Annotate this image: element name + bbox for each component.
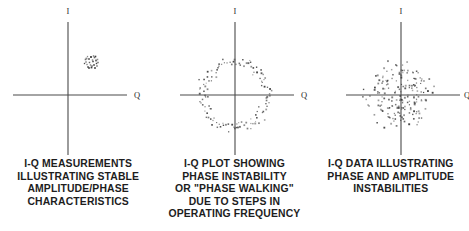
data-point xyxy=(383,127,385,129)
data-point xyxy=(398,89,400,91)
data-point xyxy=(417,121,418,122)
data-point xyxy=(239,126,241,128)
data-point xyxy=(267,106,268,107)
data-point xyxy=(394,115,395,116)
data-point xyxy=(406,61,407,62)
caption-line: DUE TO STEPS IN xyxy=(156,196,312,209)
data-point xyxy=(223,123,224,124)
data-point xyxy=(425,88,427,90)
data-point xyxy=(362,96,364,98)
data-point xyxy=(255,123,257,125)
caption-stable: I-Q MEASUREMENTS ILLUSTRATING STABLE AMP… xyxy=(0,158,156,208)
data-point xyxy=(420,99,421,100)
data-point xyxy=(404,97,406,99)
data-point xyxy=(362,89,363,90)
data-point xyxy=(258,122,260,124)
data-point xyxy=(407,95,408,96)
data-point xyxy=(402,64,403,65)
plot-svg-phase-walking: I Q xyxy=(156,0,312,158)
data-point xyxy=(391,96,393,98)
data-point xyxy=(397,86,399,88)
panel-stable: I Q I-Q MEASUREMENTS ILLUSTRATING STABLE… xyxy=(0,0,156,231)
data-point xyxy=(267,96,269,98)
data-point xyxy=(407,96,409,98)
data-point xyxy=(97,59,99,61)
data-point xyxy=(228,131,229,132)
data-point xyxy=(374,87,376,89)
data-point xyxy=(248,62,250,64)
data-point xyxy=(409,109,411,111)
data-point xyxy=(421,78,422,79)
caption-line: OR "PHASE WALKING" xyxy=(156,183,312,196)
data-point xyxy=(417,96,419,98)
data-point xyxy=(205,111,206,112)
data-point xyxy=(90,56,92,58)
data-point xyxy=(210,108,211,109)
data-point xyxy=(87,56,88,57)
data-point xyxy=(383,67,385,69)
data-point xyxy=(386,84,387,85)
data-point xyxy=(408,101,409,102)
data-point xyxy=(211,80,212,81)
data-point xyxy=(261,81,262,82)
data-point xyxy=(230,62,231,63)
data-point xyxy=(403,121,405,123)
data-point xyxy=(224,62,225,63)
caption-line: ILLUSTRATING STABLE xyxy=(0,171,156,184)
data-point xyxy=(231,64,233,66)
data-point xyxy=(381,96,382,97)
data-point xyxy=(387,83,388,84)
data-point xyxy=(373,89,375,91)
data-point xyxy=(392,118,393,119)
caption-line: I-Q DATA ILLUSTRATING xyxy=(313,158,469,171)
panel-phase-amplitude: I Q I-Q DATA ILLUSTRATING PHASE AND AMPL… xyxy=(313,0,469,231)
data-point xyxy=(236,64,238,66)
data-point xyxy=(408,123,410,125)
data-point xyxy=(402,100,403,101)
data-point xyxy=(222,59,224,61)
data-point xyxy=(416,87,417,88)
data-point xyxy=(207,76,209,78)
data-point xyxy=(382,88,384,90)
data-point xyxy=(420,91,421,92)
data-point xyxy=(412,114,413,115)
data-point xyxy=(417,72,418,73)
caption-line: AMPLITUDE/PHASE xyxy=(0,183,156,196)
data-point xyxy=(221,64,222,65)
data-point xyxy=(396,107,397,108)
data-point xyxy=(383,98,385,100)
data-point xyxy=(377,83,379,85)
data-point xyxy=(213,120,214,121)
data-point xyxy=(411,85,413,87)
data-point xyxy=(381,110,383,112)
data-point xyxy=(376,74,378,76)
data-point xyxy=(399,115,400,116)
data-point xyxy=(225,124,227,126)
data-point xyxy=(418,113,420,115)
data-point xyxy=(387,113,388,114)
data-point xyxy=(266,103,267,104)
data-point xyxy=(421,117,422,118)
data-point xyxy=(210,118,211,119)
data-point xyxy=(401,107,402,108)
data-point xyxy=(220,126,222,128)
data-point xyxy=(93,64,95,66)
data-point xyxy=(416,90,418,92)
data-point xyxy=(96,63,97,64)
data-point xyxy=(427,90,429,92)
data-point xyxy=(375,75,377,77)
data-point xyxy=(267,87,268,88)
caption-line: PHASE AND AMPLITUDE xyxy=(313,171,469,184)
data-point xyxy=(91,65,93,67)
data-point xyxy=(385,80,386,81)
data-point xyxy=(260,78,261,79)
data-point xyxy=(96,65,97,66)
data-point xyxy=(241,121,243,123)
data-point xyxy=(251,128,252,129)
plot-area-phase-walking: I Q xyxy=(156,0,312,158)
data-point xyxy=(413,118,415,120)
data-point xyxy=(265,77,267,79)
data-point xyxy=(219,63,221,65)
data-point xyxy=(431,92,433,94)
data-point xyxy=(398,73,400,75)
